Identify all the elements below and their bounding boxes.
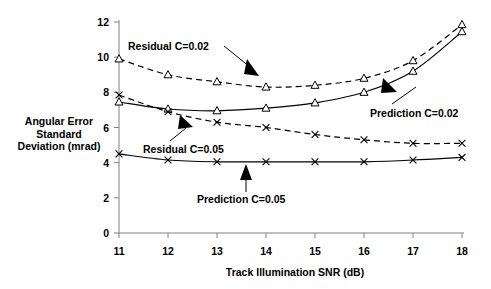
y-tick-label: 2 bbox=[87, 192, 109, 204]
y-tick-label: 8 bbox=[87, 86, 109, 98]
x-tick-label: 16 bbox=[349, 245, 379, 257]
arrow-residual-c005 bbox=[170, 115, 193, 141]
y-axis-title: Angular Error Standard Deviation (mrad) bbox=[10, 115, 108, 153]
arrow-prediction-c002 bbox=[381, 78, 416, 104]
x-tick-label: 18 bbox=[447, 245, 477, 257]
y-axis-title-line-2: Standard bbox=[10, 128, 108, 141]
y-axis-ticks bbox=[114, 22, 119, 233]
x-axis-ticks bbox=[119, 233, 462, 238]
x-tick-label: 17 bbox=[398, 245, 428, 257]
series-label-prediction-c005: Prediction C=0.05 bbox=[197, 193, 285, 205]
data-point-marker bbox=[115, 98, 123, 105]
data-point-marker bbox=[213, 78, 221, 85]
y-tick-label: 10 bbox=[87, 51, 109, 63]
y-axis-title-line-3: Deviation (mrad) bbox=[10, 140, 108, 153]
x-tick-label: 11 bbox=[104, 245, 134, 257]
axes-group bbox=[114, 20, 464, 238]
series-residual-c-0-02 bbox=[115, 20, 466, 90]
series-label-residual-c002: Residual C=0.02 bbox=[128, 40, 209, 52]
series-line bbox=[119, 95, 462, 144]
x-axis-title: Track Illumination SNR (dB) bbox=[165, 266, 425, 278]
y-axis-title-line-1: Angular Error bbox=[10, 115, 108, 128]
data-point-marker bbox=[458, 27, 466, 34]
arrow-prediction-c005 bbox=[240, 164, 252, 192]
data-point-marker bbox=[262, 83, 270, 90]
series-label-prediction-c002: Prediction C=0.02 bbox=[370, 107, 458, 119]
arrow-residual-c002 bbox=[224, 46, 259, 76]
x-tick-label: 14 bbox=[251, 245, 281, 257]
x-tick-label: 15 bbox=[300, 245, 330, 257]
y-tick-label: 12 bbox=[87, 16, 109, 28]
data-point-marker bbox=[409, 67, 417, 74]
x-tick-label: 13 bbox=[202, 245, 232, 257]
y-tick-label: 0 bbox=[87, 227, 109, 239]
x-tick-label: 12 bbox=[153, 245, 183, 257]
data-point-marker bbox=[115, 55, 123, 62]
y-tick-label: 4 bbox=[87, 157, 109, 169]
data-point-marker bbox=[409, 56, 417, 63]
annotation-arrows-group bbox=[170, 46, 416, 192]
series-label-residual-c005: Residual C=0.05 bbox=[143, 143, 224, 155]
chart-figure: 024681012 1112131415161718 Angular Error… bbox=[0, 0, 491, 289]
series-residual-c-0-05 bbox=[116, 92, 466, 147]
data-point-marker bbox=[164, 71, 172, 78]
